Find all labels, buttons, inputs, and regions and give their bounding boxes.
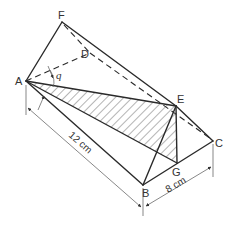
dimension-label-length: 12 cm xyxy=(67,129,95,155)
vertex-label-E: E xyxy=(177,93,184,105)
prism-diagram: F D A E C G B q 12 cm 8 cm xyxy=(0,0,232,231)
angle-q-tick xyxy=(48,66,53,78)
edge-EG xyxy=(176,106,177,163)
angle-tick-lower xyxy=(38,96,44,110)
vertex-label-F: F xyxy=(58,9,65,21)
angle-label-q: q xyxy=(56,69,62,81)
vertex-label-D: D xyxy=(81,48,89,60)
vertex-label-B: B xyxy=(142,187,149,199)
vertex-label-A: A xyxy=(15,75,23,87)
edge-EC xyxy=(176,106,213,141)
dimension-label-width: 8 cm xyxy=(163,174,187,195)
vertex-label-C: C xyxy=(215,137,223,149)
